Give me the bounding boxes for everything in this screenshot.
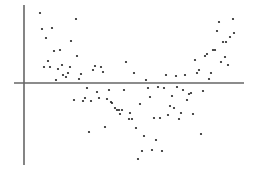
data-point [92, 69, 94, 71]
data-point [137, 158, 139, 160]
data-point [173, 107, 175, 109]
data-point [212, 49, 214, 51]
data-point [102, 71, 104, 73]
data-point [69, 66, 71, 68]
data-point [57, 68, 59, 70]
data-point [141, 150, 143, 152]
data-point [190, 92, 192, 94]
data-point [194, 59, 196, 61]
data-point [157, 86, 159, 88]
data-point [125, 61, 127, 63]
data-point [59, 49, 61, 51]
data-point [196, 72, 198, 74]
data-point [62, 74, 64, 76]
data-point [186, 99, 188, 101]
data-point [76, 55, 78, 57]
data-point [184, 74, 186, 76]
data-point [232, 18, 234, 20]
data-point [155, 139, 157, 141]
data-point [82, 100, 84, 102]
data-point [65, 76, 67, 78]
data-point [208, 78, 210, 80]
data-point [175, 75, 177, 77]
data-point [53, 50, 55, 52]
data-point [80, 73, 82, 75]
data-point [131, 118, 133, 120]
data-point [119, 113, 121, 115]
data-point [149, 96, 151, 98]
data-point [49, 66, 51, 68]
data-point [135, 127, 137, 129]
data-point [47, 60, 49, 62]
data-point [202, 90, 204, 92]
data-point [39, 12, 41, 14]
data-point [73, 99, 75, 101]
data-point [153, 117, 155, 119]
data-point [139, 103, 141, 105]
data-point [180, 112, 182, 114]
data-point [227, 64, 229, 66]
data-point [88, 131, 90, 133]
data-point [78, 78, 80, 80]
data-point [178, 118, 180, 120]
scatter-plot [0, 0, 256, 178]
data-point [86, 87, 88, 89]
data-point [229, 36, 231, 38]
data-point [216, 30, 218, 32]
data-point [214, 49, 216, 51]
data-point [222, 41, 224, 43]
data-point [143, 135, 145, 137]
data-point [200, 133, 202, 135]
data-point [167, 114, 169, 116]
data-point [129, 112, 131, 114]
data-point [218, 21, 220, 23]
data-point [151, 149, 153, 151]
data-point [225, 41, 227, 43]
data-point [133, 72, 135, 74]
data-point [70, 40, 72, 42]
data-point [43, 66, 45, 68]
data-point [55, 79, 57, 81]
data-point [100, 66, 102, 68]
data-point [75, 18, 77, 20]
data-point [163, 87, 165, 89]
data-point [210, 72, 212, 74]
data-point [147, 87, 149, 89]
data-point [224, 56, 226, 58]
plot-background [0, 0, 256, 178]
data-point [111, 102, 113, 104]
data-point [98, 97, 100, 99]
data-point [116, 109, 118, 111]
data-point [104, 126, 106, 128]
data-point [67, 72, 69, 74]
data-point [198, 69, 200, 71]
data-point [108, 89, 110, 91]
data-point [90, 100, 92, 102]
data-point [188, 93, 190, 95]
data-point [106, 98, 108, 100]
data-point [165, 74, 167, 76]
data-point [182, 89, 184, 91]
data-point [84, 97, 86, 99]
data-point [176, 86, 178, 88]
data-point [45, 37, 47, 39]
data-point [145, 79, 147, 81]
data-point [96, 91, 98, 93]
data-point [204, 55, 206, 57]
data-point [161, 150, 163, 152]
data-point [192, 113, 194, 115]
data-point [169, 105, 171, 107]
data-point [51, 27, 53, 29]
data-point [220, 61, 222, 63]
data-point [94, 65, 96, 67]
data-point [118, 109, 120, 111]
data-point [114, 107, 116, 109]
data-point [233, 32, 235, 34]
data-point [206, 53, 208, 55]
data-point [171, 95, 173, 97]
data-point [123, 89, 125, 91]
data-point [128, 118, 130, 120]
data-point [121, 109, 123, 111]
data-point [159, 117, 161, 119]
data-point [61, 64, 63, 66]
